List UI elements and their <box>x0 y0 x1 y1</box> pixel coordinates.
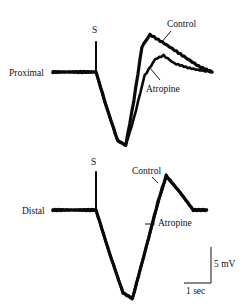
scale-bar: 5 mV 1 sec <box>184 247 236 296</box>
row-label-proximal: Proximal <box>9 68 44 78</box>
panel-distal: Distal S Control Atropine <box>22 157 207 299</box>
electrophysiology-figure: Proximal S Control Atropine Distal S Con… <box>0 0 246 307</box>
annotation-control-distal: Control <box>132 166 161 176</box>
pointer-control-proximal <box>161 31 171 43</box>
annotation-atropine-proximal: Atropine <box>146 84 180 94</box>
pointer-control-distal <box>152 177 158 183</box>
trace-proximal-control <box>53 34 212 145</box>
scale-bar-voltage-label: 5 mV <box>214 259 236 269</box>
pointer-atropine-proximal <box>150 68 160 80</box>
trace-distal-atropine <box>53 177 207 299</box>
stimulus-label-distal: S <box>91 157 96 167</box>
stimulus-label-proximal: S <box>92 25 97 35</box>
distal-traces <box>53 175 207 299</box>
scale-bar-time-label: 1 sec <box>186 286 205 296</box>
annotation-atropine-distal: Atropine <box>158 218 192 228</box>
proximal-traces <box>53 34 212 145</box>
panel-proximal: Proximal S Control Atropine <box>9 19 212 146</box>
trace-distal-control <box>53 175 207 298</box>
row-label-distal: Distal <box>22 206 45 216</box>
annotation-control-proximal: Control <box>167 19 196 29</box>
